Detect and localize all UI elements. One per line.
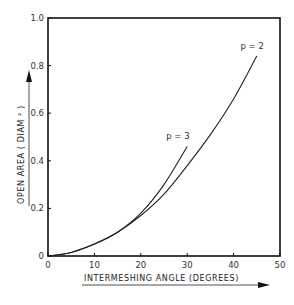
x-tick-label: 50 bbox=[275, 260, 286, 270]
y-tick-label: 0 bbox=[39, 251, 44, 261]
curve-p3 bbox=[48, 147, 187, 256]
y-tick-label: 1.0 bbox=[30, 13, 44, 23]
y-tick-label: 0.8 bbox=[30, 61, 44, 71]
x-tick-label: 40 bbox=[228, 260, 239, 270]
chart: 0102030405000.20.40.60.81.0 p = 2p = 3 I… bbox=[0, 0, 294, 305]
curve-p2 bbox=[48, 56, 257, 256]
y-tick-label: 0.2 bbox=[30, 203, 44, 213]
plot-frame bbox=[48, 18, 280, 256]
x-axis-arrow-icon bbox=[258, 282, 270, 288]
y-axis-title: OPEN AREA ( DIAM ² ) bbox=[17, 105, 26, 204]
curve-label: p = 2 bbox=[240, 41, 263, 51]
curve-label: p = 3 bbox=[166, 131, 189, 141]
x-tick-label: 20 bbox=[135, 260, 146, 270]
x-axis-title: INTERMESHING ANGLE (DEGREES) bbox=[84, 274, 239, 283]
y-tick-label: 0.4 bbox=[30, 156, 44, 166]
data-curves bbox=[48, 56, 257, 256]
x-tick-label: 10 bbox=[89, 260, 100, 270]
x-tick-label: 0 bbox=[45, 260, 50, 270]
axis-ticks bbox=[48, 18, 280, 256]
y-axis-arrow-icon bbox=[26, 70, 32, 82]
curve-annotations: p = 2p = 3 bbox=[166, 41, 264, 141]
x-tick-label: 30 bbox=[182, 260, 193, 270]
y-tick-label: 0.6 bbox=[30, 108, 44, 118]
axis-tick-labels: 0102030405000.20.40.60.81.0 bbox=[30, 13, 285, 270]
